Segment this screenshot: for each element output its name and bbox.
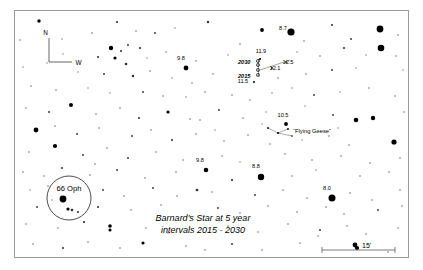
field-star — [131, 135, 133, 137]
field-star — [146, 57, 147, 58]
field-star — [337, 127, 338, 128]
field-star — [394, 95, 396, 97]
field-star — [149, 70, 151, 72]
field-star — [119, 107, 121, 109]
field-star — [218, 109, 220, 111]
field-star — [191, 82, 193, 84]
field-star — [150, 129, 152, 131]
field-star — [378, 45, 385, 52]
field-star — [343, 47, 345, 49]
geese-star — [287, 128, 289, 130]
field-star — [296, 51, 297, 52]
field-star — [69, 103, 73, 107]
epoch-marker-dot — [257, 74, 258, 75]
field-star — [77, 211, 79, 213]
field-star — [77, 71, 78, 72]
field-star — [97, 206, 99, 208]
field-star — [76, 133, 78, 135]
field-star — [349, 192, 351, 194]
labelled-star — [258, 174, 264, 180]
geese-star — [291, 135, 293, 137]
field-star — [174, 27, 175, 28]
field-star — [199, 119, 201, 121]
field-star — [377, 209, 379, 211]
field-star — [296, 211, 298, 213]
flying-geese-label: “Flying Geese” — [293, 128, 331, 134]
field-star — [204, 91, 206, 93]
labelled-star — [184, 66, 189, 71]
geese-star — [277, 132, 279, 134]
field-star — [343, 213, 345, 215]
sky-plot: N W 2030 2015 “Flying Geese” 66 Oph — [0, 0, 423, 270]
field-star — [221, 155, 223, 157]
field-star — [399, 157, 401, 159]
field-star — [25, 107, 27, 109]
field-star — [32, 243, 34, 245]
66-oph-star — [60, 196, 67, 203]
field-star — [231, 243, 233, 245]
field-star — [102, 189, 104, 191]
field-star — [359, 175, 361, 177]
field-star — [195, 60, 197, 62]
field-star — [315, 169, 316, 170]
field-star — [287, 223, 289, 225]
epoch-marker-dot — [257, 60, 258, 61]
field-star — [242, 117, 244, 119]
field-star — [257, 231, 259, 233]
field-star — [132, 75, 134, 77]
field-star — [214, 129, 215, 130]
field-star — [211, 191, 213, 193]
field-star — [62, 53, 63, 54]
field-star — [291, 175, 293, 177]
field-star — [29, 189, 30, 190]
field-star — [227, 54, 228, 55]
labelled-star — [284, 122, 288, 126]
field-star — [217, 207, 219, 209]
field-star — [328, 135, 330, 137]
field-star — [284, 153, 286, 155]
field-star — [30, 85, 32, 87]
field-star — [160, 204, 162, 206]
field-star — [325, 206, 327, 208]
field-star — [91, 32, 93, 34]
field-star — [365, 54, 366, 55]
field-star — [175, 171, 177, 173]
field-star — [171, 139, 173, 141]
field-star — [22, 171, 24, 173]
field-star — [103, 73, 105, 75]
field-star — [368, 87, 370, 89]
field-star — [53, 144, 57, 148]
field-star — [48, 111, 50, 113]
field-star — [403, 111, 405, 113]
field-star — [139, 47, 141, 49]
field-star — [311, 159, 313, 161]
field-star — [116, 21, 118, 23]
field-star — [313, 94, 315, 96]
field-star — [37, 19, 40, 22]
field-star — [305, 73, 307, 75]
field-star — [207, 21, 209, 23]
field-star — [387, 251, 389, 253]
field-star — [51, 199, 52, 200]
field-star — [340, 155, 342, 157]
field-star — [87, 241, 89, 243]
field-star — [346, 225, 348, 227]
field-star — [109, 46, 113, 50]
field-star — [265, 111, 266, 112]
field-star — [317, 235, 319, 237]
field-star — [239, 161, 240, 162]
field-star — [119, 247, 121, 249]
field-star — [189, 118, 191, 120]
field-star — [301, 139, 302, 140]
field-star — [97, 56, 99, 58]
field-star — [399, 189, 401, 191]
field-star — [62, 247, 64, 249]
field-star — [348, 144, 350, 146]
field-star — [34, 128, 39, 133]
field-star — [261, 123, 262, 124]
magnitude-label: 8.0 — [323, 185, 331, 191]
field-star — [271, 92, 272, 93]
field-star — [395, 55, 397, 57]
field-star — [371, 116, 375, 120]
field-star — [127, 157, 129, 159]
